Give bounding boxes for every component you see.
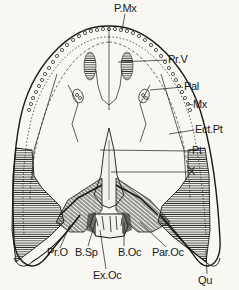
teeth (27, 27, 191, 111)
vacuity-right (158, 148, 210, 262)
label-quadrate: Qu (198, 275, 212, 286)
label-premaxilla: P.Mx (114, 3, 136, 14)
label-pterygoid: Pt (192, 145, 202, 156)
label-palatine: Pal (184, 81, 199, 92)
label-prevomer: Pr.V (168, 54, 188, 65)
label-maxilla: Mx (193, 99, 207, 110)
palatine-patches (71, 88, 151, 105)
label-ectopterygoid: Ect.Pt (195, 124, 223, 135)
label-paroccipital: Par.Oc (152, 247, 184, 258)
prevomer-right (121, 52, 133, 80)
label-x: X (188, 166, 195, 177)
prevomer-left (84, 52, 96, 80)
label-basisphenoid: B.Sp (75, 247, 98, 258)
label-basioccipital: B.Oc (118, 247, 141, 258)
label-exoccipital: Ex.Oc (93, 270, 121, 281)
skull-diagram: P.Mx Pr.V Pal Mx Ect.Pt Pt X Pr.O B.Sp B… (0, 0, 239, 290)
label-prootic: Pr.O (47, 247, 68, 258)
